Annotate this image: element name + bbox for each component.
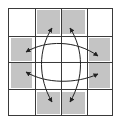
shaded-cell-r2c0 [11, 63, 32, 88]
shaded-cell-r0c1 [37, 10, 60, 34]
shaded-cell-r1c3 [89, 38, 110, 61]
arrow-vertical-right [70, 28, 81, 102]
shaded-cell-r1c0 [11, 38, 32, 61]
grid-lines [9, 9, 113, 116]
grid-diagram [0, 0, 121, 124]
shaded-cell-r0c2 [62, 10, 85, 34]
shaded-cell-r2c3 [89, 63, 110, 88]
arrow-vertical-left [42, 28, 53, 102]
